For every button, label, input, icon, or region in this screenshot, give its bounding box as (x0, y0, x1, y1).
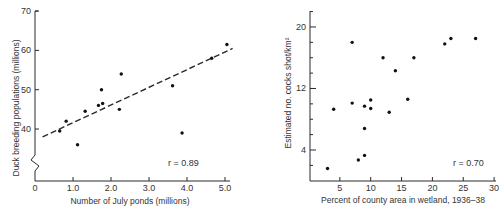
data-point (58, 129, 61, 132)
right-y-axis-label: Estimated no. cocks shot/km² (283, 37, 293, 148)
data-point (363, 154, 366, 157)
data-point (412, 56, 415, 59)
wetland-cocks-scatter-chart: 5101520253041220 r = 0.70 Percent of cou… (283, 11, 499, 205)
data-point (443, 42, 446, 45)
data-point (118, 108, 121, 111)
data-point (97, 104, 100, 107)
left-y-axis-label: Duck breeding populations (millions) (11, 39, 21, 176)
left-data-points (58, 43, 229, 147)
data-point (326, 167, 329, 170)
left-axes: 01.02.03.04.05.040506070 (21, 6, 233, 193)
right-data-points (326, 37, 477, 170)
data-point (388, 111, 391, 114)
figure: 01.02.03.04.05.040506070 r = 0.89 Number… (0, 0, 502, 212)
data-point (406, 98, 409, 101)
right-x-axis-label: Percent of county area in wetland, 1936–… (321, 195, 485, 205)
data-point (171, 84, 174, 87)
right-x-tick-label: 25 (458, 183, 468, 193)
data-point (350, 41, 353, 44)
left-y-tick-label: 70 (21, 6, 31, 16)
data-point (363, 127, 366, 130)
data-point (332, 108, 335, 111)
data-point (83, 110, 86, 113)
left-x-tick-label: 0 (32, 183, 37, 193)
right-correlation-label: r = 0.70 (453, 158, 484, 168)
left-x-axis-label: Number of July ponds (millions) (70, 196, 189, 206)
left-x-tick-label: 3.0 (143, 183, 156, 193)
right-x-tick-label: 10 (366, 183, 376, 193)
right-y-tick-label: 4 (301, 145, 306, 155)
data-point (100, 88, 103, 91)
left-y-tick-label: 40 (21, 124, 31, 134)
right-x-tick-label: 20 (427, 183, 437, 193)
data-point (381, 56, 384, 59)
data-point (369, 107, 372, 110)
data-point (369, 98, 372, 101)
right-x-tick-label: 30 (489, 183, 499, 193)
data-point (225, 43, 228, 46)
data-point (363, 104, 366, 107)
data-point (350, 101, 353, 104)
data-point (180, 131, 183, 134)
right-y-tick-label: 12 (296, 83, 306, 93)
right-x-tick-label: 5 (337, 183, 342, 193)
left-x-tick-label: 4.0 (181, 183, 194, 193)
data-point (449, 37, 452, 40)
left-y-tick-label: 50 (21, 85, 31, 95)
left-y-tick-label: 60 (21, 45, 31, 55)
data-point (357, 158, 360, 161)
data-point (64, 119, 67, 122)
left-x-tick-label: 2.0 (105, 183, 118, 193)
duck-ponds-scatter-chart: 01.02.03.04.05.040506070 r = 0.89 Number… (11, 6, 233, 206)
data-point (210, 57, 213, 60)
data-point (120, 72, 123, 75)
right-y-tick-label: 20 (296, 22, 306, 32)
left-correlation-label: r = 0.89 (168, 158, 199, 168)
left-regression-line (43, 48, 233, 136)
right-x-tick-label: 15 (397, 183, 407, 193)
data-point (101, 102, 104, 105)
left-x-tick-label: 5.0 (219, 183, 232, 193)
left-y-axis-line (31, 11, 39, 181)
data-point (474, 37, 477, 40)
data-point (76, 143, 79, 146)
data-point (394, 69, 397, 72)
left-x-tick-label: 1.0 (67, 183, 80, 193)
